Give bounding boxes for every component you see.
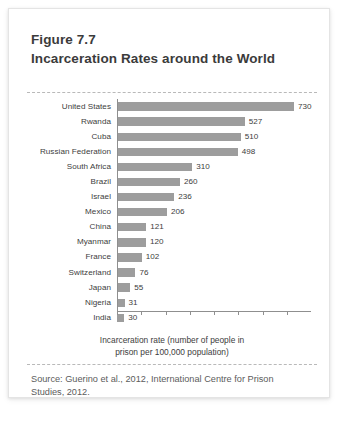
bar-chart-row: China121 <box>27 220 317 235</box>
bar-chart-row: Russian Federation498 <box>27 144 317 159</box>
bar-value-label: 121 <box>150 223 164 231</box>
bar-value-label: 527 <box>249 118 263 126</box>
bar-value-label: 31 <box>129 299 138 307</box>
bar-category-label: Nigeria <box>27 299 117 307</box>
source-note: Source: Guerino et al., 2012, Internatio… <box>31 373 309 400</box>
bar-value-label: 206 <box>171 208 185 216</box>
y-axis-line <box>117 99 118 311</box>
bar <box>117 148 238 156</box>
bar-value-label: 260 <box>184 178 198 186</box>
bar-value-label: 730 <box>298 103 312 111</box>
divider-bottom <box>27 364 317 365</box>
bar-category-label: Japan <box>27 284 117 292</box>
bar <box>117 253 142 261</box>
bar <box>117 299 125 307</box>
bar-category-label: Mexico <box>27 208 117 216</box>
bar-value-label: 76 <box>139 269 148 277</box>
figure-title-block: Figure 7.7 Incarceration Rates around th… <box>31 31 313 68</box>
x-axis-tick <box>117 311 118 315</box>
x-axis-tick <box>263 311 264 315</box>
bar-chart-row: Myanmar120 <box>27 235 317 250</box>
bar <box>117 163 192 171</box>
bar-chart-row: Japan55 <box>27 280 317 295</box>
bar-chart-rows: United States730Rwanda527Cuba510Russian … <box>27 99 317 325</box>
bar-chart-row: South Africa310 <box>27 159 317 174</box>
bar-value-label: 236 <box>178 193 192 201</box>
source-note-line-2: Studies, 2012. <box>31 386 309 399</box>
bar-category-label: China <box>27 223 117 231</box>
x-axis-tick <box>287 311 288 315</box>
bar <box>117 268 135 276</box>
bar-zone: 55 <box>117 280 317 295</box>
bar <box>117 133 241 141</box>
bar <box>117 193 174 201</box>
bar-zone: 102 <box>117 250 317 265</box>
bar <box>117 102 294 110</box>
bar-zone: 527 <box>117 114 317 129</box>
bar-chart-row: Nigeria31 <box>27 295 317 310</box>
bar-category-label: Switzerland <box>27 269 117 277</box>
x-axis-caption-line-2: prison per 100,000 population) <box>27 346 317 358</box>
bar-value-label: 498 <box>242 148 256 156</box>
bar-category-label: Cuba <box>27 133 117 141</box>
x-axis-caption-line-1: Incarceration rate (number of people in <box>27 334 317 346</box>
bar-chart-row: Rwanda527 <box>27 114 317 129</box>
bar <box>117 117 245 125</box>
bar-zone: 236 <box>117 190 317 205</box>
bar-zone: 206 <box>117 205 317 220</box>
bar-category-label: Russian Federation <box>27 148 117 156</box>
bar-chart-row: Cuba510 <box>27 129 317 144</box>
figure-number: Figure 7.7 <box>31 31 313 50</box>
bar-chart-row: Switzerland76 <box>27 265 317 280</box>
bar-chart-row: United States730 <box>27 99 317 114</box>
bar-chart-row: France102 <box>27 250 317 265</box>
bar-zone: 260 <box>117 174 317 189</box>
bar-chart-row: Israel236 <box>27 190 317 205</box>
bar-category-label: Rwanda <box>27 118 117 126</box>
bar-value-label: 120 <box>150 238 164 246</box>
bar-chart-row: Brazil260 <box>27 174 317 189</box>
bar-value-label: 102 <box>146 253 160 261</box>
bar-chart-row: Mexico206 <box>27 205 317 220</box>
bar <box>117 208 167 216</box>
bar-category-label: South Africa <box>27 163 117 171</box>
bar <box>117 178 180 186</box>
source-note-line-1: Source: Guerino et al., 2012, Internatio… <box>31 373 309 386</box>
bar <box>117 283 130 291</box>
figure-title: Incarceration Rates around the World <box>31 50 313 69</box>
bar <box>117 314 124 322</box>
bar-category-label: Israel <box>27 193 117 201</box>
bar <box>117 223 146 231</box>
bar-zone: 120 <box>117 235 317 250</box>
bar-zone: 498 <box>117 144 317 159</box>
bar-zone: 121 <box>117 220 317 235</box>
bar-category-label: France <box>27 253 117 261</box>
bar-value-label: 30 <box>128 314 137 322</box>
bar-zone: 31 <box>117 295 317 310</box>
divider-top <box>27 92 317 93</box>
x-axis-tick <box>166 311 167 315</box>
x-axis-caption: Incarceration rate (number of people in … <box>27 334 317 358</box>
bar-category-label: Myanmar <box>27 238 117 246</box>
x-axis-tick <box>238 311 239 315</box>
bar-chart-row: India30 <box>27 310 317 325</box>
bar-zone: 76 <box>117 265 317 280</box>
x-axis-tick <box>190 311 191 315</box>
bar-category-label: India <box>27 314 117 322</box>
bar-zone: 310 <box>117 159 317 174</box>
bar-category-label: Brazil <box>27 178 117 186</box>
bar-chart: United States730Rwanda527Cuba510Russian … <box>27 99 317 324</box>
x-axis-tick <box>214 311 215 315</box>
bar <box>117 238 146 246</box>
bar-zone: 730 <box>117 99 317 114</box>
figure-card: Figure 7.7 Incarceration Rates around th… <box>8 8 330 398</box>
bar-value-label: 310 <box>196 163 210 171</box>
bar-zone: 510 <box>117 129 317 144</box>
bar-value-label: 55 <box>134 284 143 292</box>
bar-category-label: United States <box>27 103 117 111</box>
x-axis-tick <box>141 311 142 315</box>
bar-value-label: 510 <box>245 133 259 141</box>
